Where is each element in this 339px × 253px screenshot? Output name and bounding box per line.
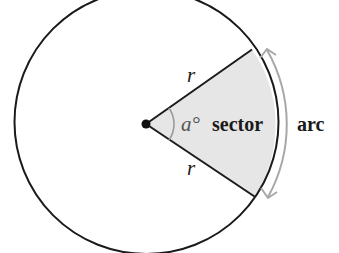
radius-label-bottom: r	[187, 156, 196, 180]
arc-label: arc	[297, 113, 325, 135]
sector-diagram: r r a° sector arc	[0, 0, 339, 253]
sector-label: sector	[212, 113, 263, 135]
angle-label: a°	[181, 112, 201, 136]
arc-arrowhead-bottom	[261, 188, 277, 198]
radius-label-top: r	[187, 63, 196, 87]
center-point	[142, 120, 151, 129]
